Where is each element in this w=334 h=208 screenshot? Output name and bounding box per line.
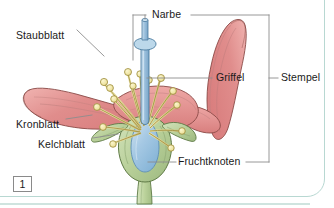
figure-number-badge: 1 (13, 176, 32, 192)
label-fruchtknoten: Fruchtknoten (178, 156, 240, 167)
label-kronblatt: Kronblatt (16, 119, 59, 130)
label-staubblatt: Staubblatt (16, 30, 64, 41)
label-narbe: Narbe (152, 9, 181, 20)
label-kelchblatt: Kelchblatt (38, 139, 85, 150)
stigma-narbe (134, 18, 156, 50)
label-griffel: Griffel (216, 72, 245, 83)
figure-page: Narbe Griffel Stempel Staubblatt Kronbla… (0, 0, 334, 208)
label-stempel: Stempel (281, 72, 320, 83)
leader-staubblatt (77, 30, 104, 56)
style-griffel (141, 48, 149, 125)
